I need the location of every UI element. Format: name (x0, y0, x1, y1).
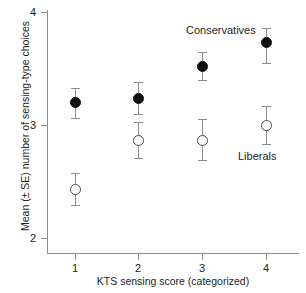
marker-open-circle (197, 135, 208, 146)
chart-canvas: 4 3 2 1 2 3 4 KTS sensing score (categor… (0, 0, 306, 293)
errorbar-cap-upper (262, 106, 271, 107)
marker-filled-circle (261, 37, 272, 48)
marker-filled-circle (70, 97, 81, 108)
x-tick-label-2: 2 (131, 263, 145, 274)
x-axis-title: KTS sensing score (categorized) (47, 275, 299, 287)
marker-filled-circle (197, 61, 208, 72)
marker-open-circle (70, 184, 81, 195)
errorbar-cap-upper (134, 82, 143, 83)
errorbar-cap-upper (134, 122, 143, 123)
marker-open-circle (261, 120, 272, 131)
errorbar-cap-upper (71, 88, 80, 89)
x-tick-4 (266, 254, 267, 260)
y-axis-title: Mean (± SE) number of sensing-type choic… (19, 16, 31, 236)
x-tick-3 (202, 254, 203, 260)
errorbar-cap-lower (134, 114, 143, 115)
errorbar-cap-lower (198, 80, 207, 81)
y-axis-line (47, 10, 48, 254)
series-label-liberals: Liberals (238, 150, 277, 162)
errorbar-cap-lower (134, 158, 143, 159)
x-tick-label-3: 3 (195, 263, 209, 274)
errorbar-cap-upper (198, 52, 207, 53)
errorbar-cap-lower (262, 63, 271, 64)
y-tick-2 (41, 238, 47, 239)
errorbar-cap-lower (71, 205, 80, 206)
y-tick-4 (41, 12, 47, 13)
errorbar-cap-upper (71, 173, 80, 174)
errorbar-cap-lower (262, 144, 271, 145)
errorbar-cap-upper (198, 119, 207, 120)
x-tick-1 (75, 254, 76, 260)
x-tick-2 (138, 254, 139, 260)
marker-filled-circle (133, 93, 144, 104)
errorbar-cap-lower (198, 160, 207, 161)
errorbar-cap-lower (71, 118, 80, 119)
x-tick-label-1: 1 (68, 263, 82, 274)
x-axis-line (47, 253, 299, 254)
y-tick-3 (41, 125, 47, 126)
x-tick-label-4: 4 (259, 263, 273, 274)
series-label-conservatives: Conservatives (186, 24, 256, 36)
marker-open-circle (133, 135, 144, 146)
errorbar-cap-upper (262, 28, 271, 29)
